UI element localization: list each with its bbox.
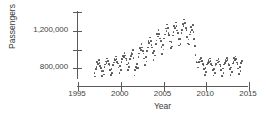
scatter-point [188, 39, 190, 41]
scatter-point [104, 64, 106, 66]
scatter-point [125, 58, 127, 60]
x-tick-label: 2015 [239, 90, 256, 98]
scatter-point [163, 49, 165, 51]
scatter-point [210, 60, 212, 62]
scatter-point [207, 62, 209, 64]
scatter-point [95, 68, 97, 70]
scatter-point [168, 32, 170, 34]
scatter-point [211, 65, 213, 67]
scatter-point [167, 27, 169, 29]
scatter-point [114, 58, 116, 60]
scatter-point [153, 50, 155, 52]
y-tick-mark [73, 12, 82, 13]
scatter-point [99, 62, 101, 64]
scatter-point [223, 72, 225, 74]
scatter-point [196, 62, 198, 64]
scatter-point [116, 61, 118, 63]
scatter-point [187, 43, 189, 45]
scatter-point [128, 62, 130, 64]
scatter-point [171, 41, 173, 43]
scatter-point [106, 58, 108, 60]
scatter-point [235, 56, 237, 58]
scatter-point [130, 55, 132, 57]
scatter-point [240, 62, 242, 64]
scatter-point [176, 25, 178, 27]
scatter-point [128, 66, 130, 68]
scatter-point [230, 74, 232, 76]
scatter-point [233, 61, 235, 63]
scatter-point [161, 46, 163, 48]
scatter-point [228, 64, 230, 66]
scatter-point [202, 63, 204, 65]
scatter-point [150, 40, 152, 42]
x-tick-label: 2000 [111, 90, 128, 98]
scatter-point [109, 65, 111, 67]
scatter-chart-figure: 800,0001,200,000 Passengers 199520002005… [0, 0, 266, 122]
scatter-point [156, 40, 158, 42]
scatter-point [194, 45, 196, 47]
scatter-point [219, 64, 221, 66]
scatter-point [209, 58, 211, 60]
scatter-point [201, 60, 203, 62]
scatter-point [134, 75, 136, 77]
scatter-point [213, 75, 215, 77]
scatter-point [220, 69, 222, 71]
scatter-point [126, 59, 128, 61]
scatter-point [190, 26, 192, 28]
scatter-point [237, 63, 239, 65]
scatter-point [235, 58, 237, 60]
scatter-point [234, 59, 236, 61]
scatter-point [141, 47, 143, 49]
scatter-point [137, 67, 139, 69]
scatter-point [208, 59, 210, 61]
scatter-point [158, 29, 160, 31]
scatter-point [118, 67, 120, 69]
y-tick-mark [73, 50, 82, 51]
scatter-point [124, 55, 126, 57]
scatter-point [177, 32, 179, 34]
scatter-point [133, 57, 135, 59]
scatter-point [101, 70, 103, 72]
scatter-point [240, 70, 242, 72]
scatter-point [107, 60, 109, 62]
scatter-point [96, 61, 98, 63]
scatter-point [151, 47, 153, 49]
scatter-point [136, 63, 138, 65]
scatter-point [208, 61, 210, 63]
scatter-point [213, 68, 215, 70]
scatter-point [159, 38, 161, 40]
scatter-point [178, 38, 180, 40]
scatter-point [139, 47, 141, 49]
scatter-point [148, 42, 150, 44]
scatter-point [171, 46, 173, 48]
scatter-point [223, 64, 225, 66]
x-tick-label: 2005 [154, 90, 171, 98]
scatter-point [203, 68, 205, 70]
scatter-point [199, 59, 201, 61]
scatter-point [238, 73, 240, 75]
scatter-point [116, 58, 118, 60]
scatter-point [176, 30, 178, 32]
scatter-point [227, 59, 229, 61]
scatter-point [145, 56, 147, 58]
scatter-point [112, 64, 114, 66]
scatter-point [161, 53, 163, 55]
scatter-point [232, 63, 234, 65]
scatter-point [136, 67, 138, 69]
scatter-point [110, 74, 112, 76]
scatter-point [205, 71, 207, 73]
scatter-point [140, 49, 142, 51]
scatter-point [119, 72, 121, 74]
scatter-point [179, 38, 181, 40]
scatter-point [214, 72, 216, 74]
scatter-point [183, 19, 185, 21]
scatter-point [173, 31, 175, 33]
scatter-point [222, 68, 224, 70]
y-tick-label: 800,000 [40, 63, 68, 71]
scatter-point [192, 24, 194, 26]
scatter-point [181, 32, 183, 34]
scatter-point [111, 68, 113, 70]
scatter-point [111, 72, 113, 74]
scatter-point [168, 34, 170, 36]
scatter-point [123, 56, 125, 58]
